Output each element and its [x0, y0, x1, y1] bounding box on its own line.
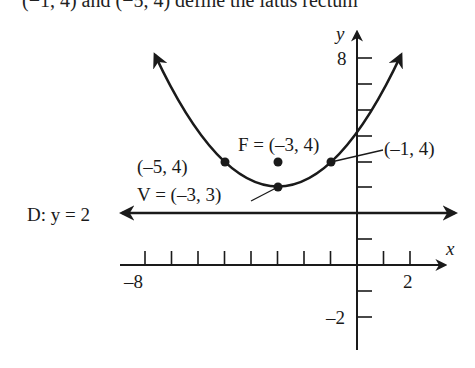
- parabola-curve: [155, 55, 401, 187]
- y-ticks: [357, 58, 372, 317]
- x-ticks: [145, 251, 410, 265]
- y-tick-label-8: 8: [337, 48, 347, 69]
- y-tick-label-neg2: –2: [325, 307, 345, 328]
- y-axis: [357, 32, 372, 350]
- y-axis-label: y: [334, 23, 345, 44]
- directrix-label: D: y = 2: [27, 204, 90, 225]
- right-latus-label: (–1, 4): [384, 138, 435, 160]
- vertex-label: V = (–3, 3): [137, 184, 221, 206]
- x-axis: [120, 251, 445, 265]
- point-left-latus: [221, 158, 230, 167]
- point-focus: [274, 158, 283, 167]
- leader-vertex: [251, 187, 278, 201]
- left-latus-label: (–5, 4): [137, 156, 188, 178]
- x-tick-label-2: 2: [403, 271, 413, 292]
- x-axis-label: x: [445, 238, 455, 259]
- focus-label: F = (–3, 4): [238, 134, 319, 156]
- parabola-figure: y x 8 –2 –8 2 F = (–3, 4) (–5, 4) (–1, 4…: [0, 0, 475, 368]
- x-tick-label-neg8: –8: [123, 271, 143, 292]
